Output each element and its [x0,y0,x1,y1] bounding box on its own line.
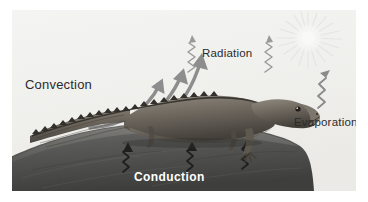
label-evaporation: Evaporation [294,116,356,128]
illustration-scene: Convection Radiation Evaporation Conduct… [12,10,356,191]
lizard-eye [295,106,300,111]
heat-transfer-figure: Convection Radiation Evaporation Conduct… [0,0,368,202]
label-convection: Convection [25,77,92,92]
label-conduction: Conduction [134,170,205,184]
label-radiation: Radiation [202,47,252,59]
scene-artwork [12,10,356,191]
